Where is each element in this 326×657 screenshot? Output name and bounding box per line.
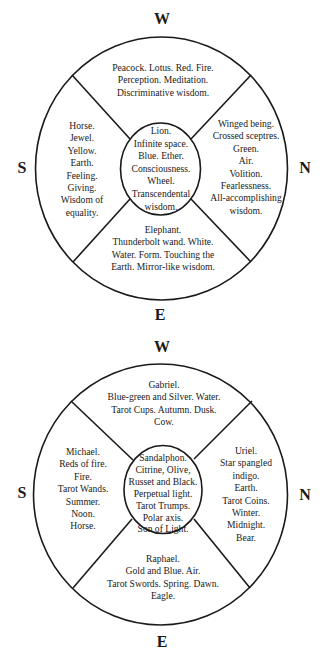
text-line: Blue. Ether. xyxy=(118,150,204,163)
text-line: Perception. Meditation. xyxy=(90,74,236,86)
text-line: All-accomplishing xyxy=(204,192,288,204)
text-line: Giving. xyxy=(46,182,118,194)
text-line: Winged being. xyxy=(204,118,288,130)
direction-east-1: E xyxy=(150,306,170,324)
text-line: Son of Light. xyxy=(122,523,204,535)
text-line: Volition. xyxy=(204,168,288,180)
text-line: Discriminative wisdom. xyxy=(90,87,236,99)
text-line: Consciousness. xyxy=(118,163,204,176)
text-line: Elephant. xyxy=(90,224,236,236)
segment-left-1: Horse. Jewel. Yellow. Earth. Feeling. Gi… xyxy=(46,120,118,219)
text-line: Infinite space. xyxy=(118,138,204,151)
text-line: equality. xyxy=(46,207,118,219)
text-line: Earth. xyxy=(210,482,282,494)
text-line: wisdom. xyxy=(204,205,288,217)
text-line: Uriel. xyxy=(210,445,282,457)
text-line: Bear. xyxy=(210,532,282,544)
direction-south-1: S xyxy=(12,159,32,177)
segment-bottom-1: Elephant. Thunderbolt wand. White. Water… xyxy=(90,224,236,274)
text-line: Midnight. xyxy=(210,519,282,531)
text-line: Gold and Blue. Air. xyxy=(88,565,238,577)
text-line: Transcendental xyxy=(118,188,204,201)
text-line: Yellow. xyxy=(46,145,118,157)
text-line: Fearlessness. xyxy=(204,180,288,192)
text-line: Blue-green and Silver. Water. xyxy=(82,391,246,403)
segment-bottom-2: Raphael. Gold and Blue. Air. Tarot Sword… xyxy=(88,553,238,603)
text-line: Horse. xyxy=(46,120,118,132)
segment-left-2: Michael. Reds of fire. Fire. Tarot Wands… xyxy=(46,446,120,533)
segment-top-1: Peacock. Lotus. Red. Fire. Perception. M… xyxy=(90,62,236,99)
text-line: Horse. xyxy=(46,520,120,532)
text-line: Jewel. xyxy=(46,132,118,144)
text-line: Peacock. Lotus. Red. Fire. xyxy=(90,62,236,74)
text-line: Gabriel. xyxy=(82,379,246,391)
segment-center-2: Sandalphon. Citrine, Olive, Russet and B… xyxy=(122,452,204,535)
segment-center-1: Lion. Infinite space. Blue. Ether. Consc… xyxy=(118,125,204,213)
text-line: Wisdom of xyxy=(46,194,118,206)
text-line: Reds of fire. xyxy=(46,458,120,470)
text-line: Crossed sceptres. xyxy=(204,130,288,142)
segment-right-2: Uriel. Star spangled indigo. Earth. Taro… xyxy=(210,445,282,544)
text-line: Noon. xyxy=(46,508,120,520)
text-line: Michael. xyxy=(46,446,120,458)
text-line: Wheel. xyxy=(118,175,204,188)
text-line: Polar axis. xyxy=(122,512,204,524)
text-line: Winter. xyxy=(210,507,282,519)
text-line: Green. xyxy=(204,143,288,155)
text-line: wisdom. xyxy=(118,201,204,214)
text-line: indigo. xyxy=(210,470,282,482)
text-line: Earth. Mirror-like wisdom. xyxy=(90,261,236,273)
text-line: Citrine, Olive, xyxy=(122,464,204,476)
segment-top-2: Gabriel. Blue-green and Silver. Water. T… xyxy=(82,379,246,429)
text-line: Earth. xyxy=(46,157,118,169)
text-line: Fire. xyxy=(46,471,120,483)
text-line: Star spangled xyxy=(210,457,282,469)
direction-west-2: W xyxy=(152,338,172,356)
text-line: Tarot Trumps. xyxy=(122,500,204,512)
text-line: Perpetual light. xyxy=(122,488,204,500)
text-line: Tarot Swords. Spring. Dawn. xyxy=(88,578,238,590)
text-line: Raphael. xyxy=(88,553,238,565)
text-line: Summer. xyxy=(46,496,120,508)
direction-east-2: E xyxy=(152,633,172,651)
direction-south-2: S xyxy=(12,484,32,502)
text-line: Water. Form. Touching the xyxy=(90,249,236,261)
text-line: Sandalphon. xyxy=(122,452,204,464)
text-line: Lion. xyxy=(118,125,204,138)
text-line: Tarot Cups. Autumn. Dusk. xyxy=(82,404,246,416)
text-line: Tarot Wands. xyxy=(46,483,120,495)
direction-west-1: W xyxy=(152,10,172,28)
text-line: Russet and Black. xyxy=(122,476,204,488)
text-line: Thunderbolt wand. White. xyxy=(90,236,236,248)
segment-right-1: Winged being. Crossed sceptres. Green. A… xyxy=(204,118,288,217)
text-line: Tarot Coins. xyxy=(210,495,282,507)
direction-north-2: N xyxy=(295,486,315,504)
direction-north-1: N xyxy=(295,159,315,177)
text-line: Cow. xyxy=(82,416,246,428)
text-line: Feeling. xyxy=(46,170,118,182)
text-line: Eagle. xyxy=(88,590,238,602)
text-line: Air. xyxy=(204,155,288,167)
